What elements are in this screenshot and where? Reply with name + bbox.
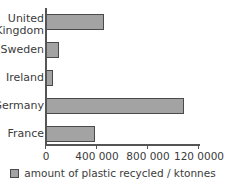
bar-united-kingdom[interactable] — [46, 14, 104, 30]
x-tick-label-1: 400 000 — [75, 150, 118, 162]
legend-swatch-icon — [10, 169, 19, 178]
x-tick-mark-2 — [147, 145, 148, 149]
chart-legend: amount of plastic recycled / ktonnes — [0, 167, 226, 179]
bar-chart: United Kingdom Sweden Ireland Germany Fr… — [0, 0, 226, 189]
category-label-germany: Germany — [0, 100, 44, 112]
bar-row-sweden — [46, 36, 59, 63]
plot-area: United Kingdom Sweden Ireland Germany Fr… — [0, 0, 226, 147]
x-tick-label-0: 0 — [43, 150, 50, 162]
x-axis-line — [45, 144, 200, 146]
legend-label: amount of plastic recycled / ktonnes — [24, 167, 215, 179]
bar-row-united-kingdom — [46, 8, 104, 35]
bar-germany[interactable] — [46, 98, 184, 114]
bar-france[interactable] — [46, 126, 95, 142]
bar-sweden[interactable] — [46, 42, 59, 58]
category-label-united-kingdom: United Kingdom — [0, 13, 44, 36]
x-tick-label-3: 120 0000 — [174, 150, 224, 162]
bar-row-france — [46, 120, 95, 147]
x-tick-mark-3 — [198, 145, 199, 149]
category-label-france: France — [0, 128, 44, 140]
bar-ireland[interactable] — [46, 70, 53, 86]
x-tick-mark-1 — [96, 145, 97, 149]
x-tick-mark-0 — [45, 145, 46, 149]
x-tick-label-2: 800 000 — [126, 150, 169, 162]
bar-row-ireland — [46, 64, 53, 91]
category-label-ireland: Ireland — [0, 72, 44, 84]
y-axis-line — [45, 8, 47, 145]
bar-row-germany — [46, 92, 184, 119]
category-label-sweden: Sweden — [0, 44, 44, 56]
